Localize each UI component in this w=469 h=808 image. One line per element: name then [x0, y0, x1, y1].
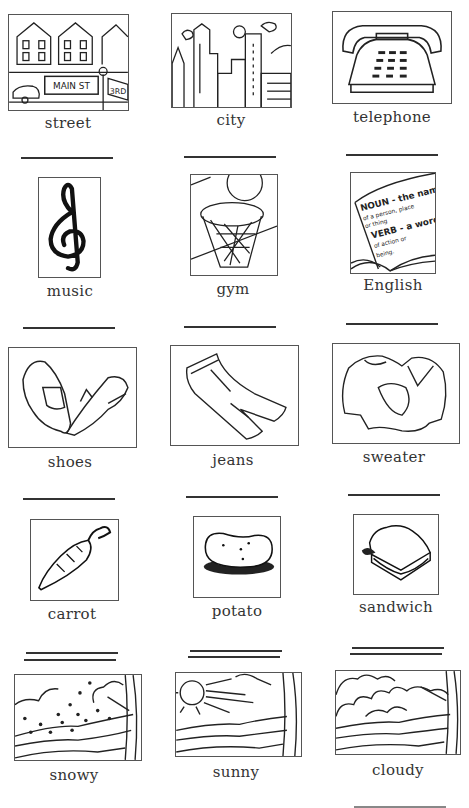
shoes-icon [9, 348, 136, 447]
answer-line[interactable] [190, 650, 282, 652]
answer-line[interactable] [184, 326, 276, 328]
answer-line[interactable] [26, 652, 118, 654]
answer-line[interactable] [186, 496, 278, 498]
english-picture: NOUN - the name of a person, place or th… [350, 172, 436, 274]
gym-picture [190, 174, 278, 276]
cloudy-picture [335, 670, 461, 755]
snowy-picture [14, 674, 142, 761]
answer-line[interactable] [24, 659, 116, 661]
word-label-shoes: shoes [0, 453, 140, 471]
street-picture: MAIN ST 3RD [8, 14, 129, 111]
word-label-cloudy: cloudy [328, 761, 468, 779]
music-picture [38, 177, 101, 278]
carrot-picture [30, 519, 119, 601]
open-book-icon: NOUN - the name of a person, place or th… [351, 173, 435, 273]
svg-text:MAIN ST: MAIN ST [53, 81, 90, 91]
word-label-sandwich: sandwich [326, 598, 466, 616]
word-label-english: English [323, 276, 463, 294]
answer-line[interactable] [23, 498, 115, 500]
treble-clef-icon [39, 178, 100, 277]
word-label-sweater: sweater [324, 448, 464, 466]
word-label-music: music [0, 282, 140, 300]
word-label-sunny: sunny [166, 763, 306, 781]
answer-line[interactable] [352, 647, 444, 649]
svg-text:being.: being. [376, 248, 396, 259]
city-skyline-icon [172, 14, 291, 107]
word-label-city: city [161, 111, 301, 129]
snowy-landscape-icon [15, 675, 141, 760]
sandwich-picture [353, 514, 439, 595]
answer-line[interactable] [188, 656, 280, 658]
word-label-jeans: jeans [163, 451, 303, 469]
sunny-picture [175, 672, 302, 757]
shoes-picture [8, 347, 137, 448]
word-label-snowy: snowy [4, 766, 144, 784]
city-picture [171, 13, 292, 108]
jeans-icon [171, 346, 298, 445]
word-label-street: street [0, 114, 138, 132]
street-illustration-icon: MAIN ST 3RD [9, 15, 128, 110]
sandwich-icon [354, 515, 438, 594]
word-label-potato: potato [167, 602, 307, 620]
potato-icon [194, 517, 280, 597]
answer-line[interactable] [21, 157, 113, 159]
svg-text:3RD: 3RD [110, 87, 127, 96]
telephone-picture [332, 11, 452, 104]
basketball-hoop-icon [191, 175, 277, 275]
carrot-icon [31, 520, 118, 600]
sweater-picture [332, 343, 460, 444]
answer-line[interactable] [350, 653, 442, 655]
answer-line[interactable] [23, 327, 115, 329]
telephone-icon [333, 12, 451, 103]
word-label-telephone: telephone [322, 108, 462, 126]
answer-line[interactable] [346, 154, 438, 156]
jeans-picture [170, 345, 299, 446]
sunny-landscape-icon [176, 673, 301, 756]
word-label-gym: gym [163, 280, 303, 298]
answer-line[interactable] [348, 494, 440, 496]
answer-line[interactable] [184, 156, 276, 158]
sweater-icon [333, 344, 459, 443]
cloudy-landscape-icon [336, 671, 460, 754]
answer-line[interactable] [346, 323, 438, 325]
word-label-carrot: carrot [2, 605, 142, 623]
potato-picture [193, 516, 281, 598]
